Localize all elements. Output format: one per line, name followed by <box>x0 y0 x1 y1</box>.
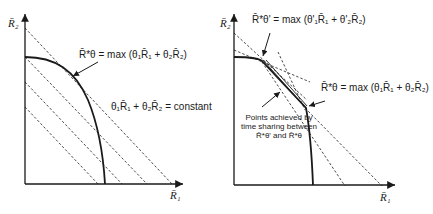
diagram-canvas <box>0 0 433 214</box>
left-optimum-label: R̄*θ = max (θ₁R̄₁ + θ₂R̄₂) <box>79 50 187 60</box>
left-constant-line-label: θ₁R̄₁ + θ₂R̄₂ = constant <box>111 102 212 112</box>
right-y-axis-label: R̄₂ <box>220 18 231 29</box>
left-x-axis-label: R̄₁ <box>170 190 181 201</box>
left-panel <box>25 14 183 184</box>
time-sharing-caption: Points achieved by time sharing between … <box>230 113 328 141</box>
right-optimum-pointer <box>309 101 325 106</box>
right-x-axis-label: R̄₁ <box>380 192 391 203</box>
right-prime-pointer <box>263 33 270 56</box>
right-tangent-lines <box>234 33 382 186</box>
left-optimum-pointer <box>73 62 98 76</box>
time-sharing-segments <box>263 60 307 107</box>
right-panel <box>234 14 395 186</box>
left-capacity-boundary <box>25 57 105 184</box>
left-y-axis-label: R̄₂ <box>8 18 19 29</box>
right-optimum-label: R̄*θ = max (θ₁R̄₁ + θ₂R̄₂) <box>321 83 429 93</box>
time-sharing-pointer <box>262 92 280 107</box>
right-prime-optimum-label: R̄*θ' = max (θ'₁R̄₁ + θ'₂R̄₂) <box>252 15 366 25</box>
